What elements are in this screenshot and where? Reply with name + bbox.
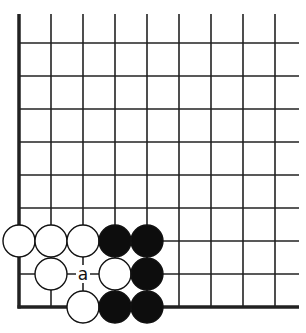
white-stone (35, 225, 67, 257)
go-board-diagram: a (0, 0, 306, 333)
white-stone (67, 225, 99, 257)
point-labels: a (76, 264, 90, 284)
white-stone (35, 258, 67, 290)
black-stone (99, 225, 131, 257)
point-label: a (78, 264, 88, 284)
white-stone (67, 291, 99, 323)
white-stone (3, 225, 35, 257)
black-stone (131, 291, 163, 323)
white-stone (99, 258, 131, 290)
black-stone (131, 258, 163, 290)
black-stone (131, 225, 163, 257)
black-stone (99, 291, 131, 323)
